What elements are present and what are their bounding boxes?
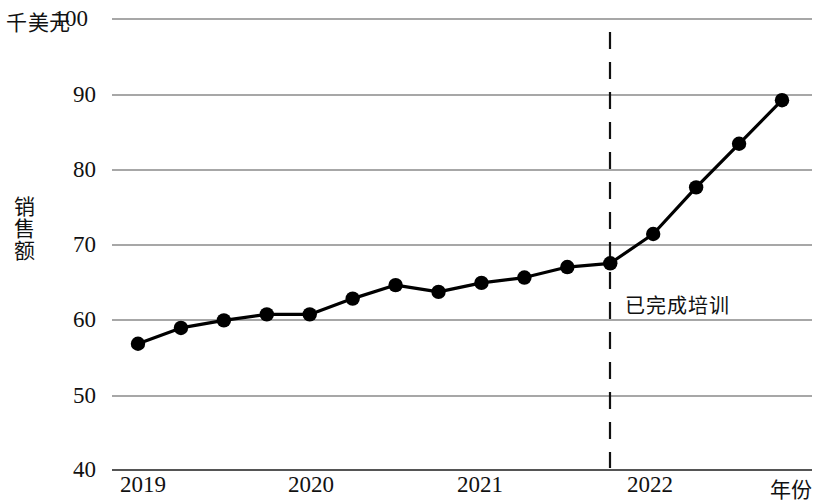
- data-point: [517, 270, 531, 284]
- data-point: [732, 137, 746, 151]
- x-tick-label-2021: 2021: [457, 472, 503, 498]
- data-point: [345, 291, 359, 305]
- data-point: [260, 307, 274, 321]
- data-point: [174, 321, 188, 335]
- training-completed-annotation: 已完成培训: [625, 290, 730, 319]
- data-point: [131, 337, 145, 351]
- data-point: [303, 307, 317, 321]
- data-point: [431, 285, 445, 299]
- x-tick-label-2022: 2022: [627, 472, 673, 498]
- data-point: [217, 313, 231, 327]
- x-tick-label-2019: 2019: [120, 472, 166, 498]
- data-point: [388, 278, 402, 292]
- data-point: [775, 93, 789, 107]
- x-axis-title: 年份: [770, 473, 812, 503]
- data-point: [646, 227, 660, 241]
- data-point: [603, 256, 617, 270]
- data-point: [474, 276, 488, 290]
- data-point: [560, 260, 574, 274]
- x-tick-label-2020: 2020: [288, 472, 334, 498]
- data-point: [689, 180, 703, 194]
